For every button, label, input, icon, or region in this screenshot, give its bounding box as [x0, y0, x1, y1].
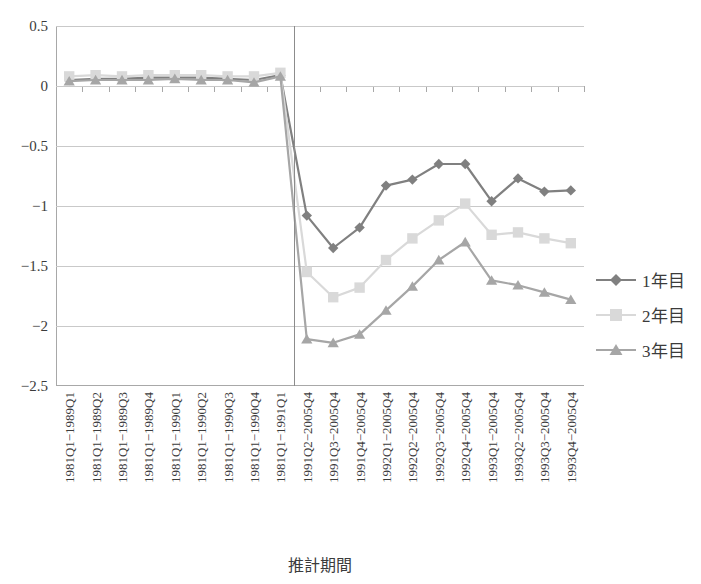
x-axis-category-label: 1981Q1−1989Q4 — [141, 392, 157, 483]
y-axis-tick-label: −1.5 — [21, 258, 48, 275]
chart-container: 0.50−0.5−1−1.5−2−2.5 1981Q1−1989Q11981Q1… — [0, 0, 701, 584]
x-axis-category-label: 1993Q2−2005Q4 — [511, 392, 527, 483]
x-axis-category-label: 1981Q1−1991Q1 — [273, 392, 289, 483]
x-axis-category-label: 1991Q3−2005Q4 — [326, 392, 342, 483]
legend-label: 1年目 — [636, 267, 685, 292]
legend-item-3[interactable]: 3年目 — [596, 332, 701, 367]
x-axis-category-label: 1981Q1−1990Q1 — [168, 392, 184, 483]
legend-label: 3年目 — [636, 337, 685, 362]
y-axis-tick-label: 0 — [41, 78, 49, 95]
diamond-marker-icon — [609, 273, 623, 287]
x-axis-category-label: 1992Q3−2005Q4 — [432, 392, 448, 483]
series-marker — [407, 174, 417, 184]
series-marker — [434, 159, 444, 169]
series-layer — [56, 26, 584, 386]
series-1 — [64, 70, 576, 253]
series-marker — [513, 227, 523, 237]
series-2 — [64, 68, 576, 303]
x-axis-category-label: 1981Q1−1989Q1 — [62, 392, 78, 483]
x-axis-category-label: 1992Q4−2005Q4 — [458, 392, 474, 483]
y-axis-tick-label: −2 — [32, 318, 48, 335]
legend-swatch — [596, 342, 636, 358]
triangle-marker-icon — [609, 343, 623, 357]
y-axis-tick-label: −1 — [32, 198, 48, 215]
series-marker — [539, 233, 549, 243]
series-marker — [566, 185, 576, 195]
x-axis-category-label: 1981Q1−1989Q3 — [115, 392, 131, 483]
series-marker — [328, 292, 338, 302]
x-axis-category-label: 1981Q1−1989Q2 — [89, 392, 105, 483]
y-axis-tick-label: 0.5 — [29, 18, 48, 35]
x-axis-category-label: 1992Q2−2005Q4 — [405, 392, 421, 483]
legend-item-1[interactable]: 1年目 — [596, 262, 701, 297]
x-axis-labels: 1981Q1−1989Q11981Q1−1989Q21981Q1−1989Q31… — [56, 392, 584, 542]
series-marker — [566, 238, 576, 248]
series-marker — [486, 230, 496, 240]
x-axis-category-label: 1993Q4−2005Q4 — [564, 392, 580, 483]
legend-swatch — [596, 272, 636, 288]
plot-area — [56, 26, 584, 386]
chart-title — [0, 0, 701, 14]
chart-legend: 1年目2年目3年目 — [596, 262, 701, 367]
series-line — [69, 73, 571, 297]
y-axis-tick-label: −2.5 — [21, 378, 48, 395]
square-marker-icon — [609, 308, 623, 322]
x-axis-category-label: 1992Q1−2005Q4 — [379, 392, 395, 483]
series-marker — [434, 215, 444, 225]
y-axis-tick-label: −0.5 — [21, 138, 48, 155]
series-marker — [381, 180, 391, 190]
series-marker — [460, 198, 470, 208]
series-marker — [539, 186, 549, 196]
x-axis-title: 推計期間 — [56, 552, 584, 576]
series-line — [69, 76, 571, 342]
x-axis-category-label: 1981Q1−1990Q3 — [221, 392, 237, 483]
x-axis-category-label: 1991Q4−2005Q4 — [353, 392, 369, 483]
legend-item-2[interactable]: 2年目 — [596, 297, 701, 332]
period-divider-line — [294, 26, 295, 386]
x-axis-category-label: 1993Q1−2005Q4 — [485, 392, 501, 483]
x-axis-category-label: 1981Q1−1990Q2 — [194, 392, 210, 483]
series-line — [69, 75, 571, 248]
legend-label: 2年目 — [636, 302, 685, 327]
y-axis-labels: 0.50−0.5−1−1.5−2−2.5 — [0, 26, 48, 386]
x-axis-category-label: 1993Q3−2005Q4 — [537, 392, 553, 483]
series-3 — [64, 71, 577, 347]
series-marker — [407, 233, 417, 243]
series-marker — [354, 282, 364, 292]
series-marker — [460, 237, 471, 247]
x-axis-category-label: 1991Q2−2005Q4 — [300, 392, 316, 483]
x-axis-tick-mark — [584, 86, 585, 92]
legend-swatch — [596, 307, 636, 323]
x-axis-category-label: 1981Q1−1990Q4 — [247, 392, 263, 483]
series-marker — [302, 267, 312, 277]
series-marker — [381, 255, 391, 265]
